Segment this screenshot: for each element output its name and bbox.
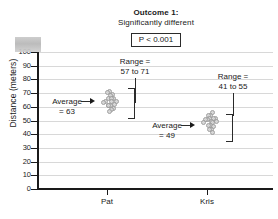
scan-artifact bbox=[15, 37, 41, 52]
annotation-kris-average-line2: = 49 bbox=[141, 131, 193, 141]
y-tick bbox=[31, 162, 37, 163]
y-axis-title: Distance (meters) bbox=[8, 38, 18, 148]
y-tick bbox=[31, 107, 37, 108]
y-tick bbox=[31, 121, 37, 122]
bracket-pat-range bbox=[128, 88, 135, 119]
annotation-kris-average: Average = 49 bbox=[141, 121, 193, 140]
y-tick bbox=[31, 52, 37, 53]
gridline bbox=[37, 93, 273, 94]
gridline bbox=[37, 52, 273, 53]
leader-line-kris-range bbox=[233, 93, 234, 116]
annotation-pat-range-line2: 57 to 71 bbox=[105, 67, 165, 77]
y-tick bbox=[31, 134, 37, 135]
x-axis-line bbox=[37, 188, 273, 190]
leader-line-pat-range bbox=[135, 78, 136, 103]
y-tick-label: 20 bbox=[9, 158, 31, 166]
annotation-pat-average-line2: = 63 bbox=[41, 107, 93, 117]
annotation-kris-range-line2: 41 to 55 bbox=[202, 82, 264, 92]
arrow-head-kris-icon bbox=[190, 122, 195, 128]
annotation-pat-average: Average = 63 bbox=[41, 97, 93, 116]
annotation-kris-range: Range = 41 to 55 bbox=[202, 72, 264, 91]
p-value-box: P < 0.001 bbox=[131, 33, 181, 47]
arrow-head-pat-icon bbox=[90, 98, 95, 104]
gridline bbox=[37, 162, 273, 163]
x-label-pat: Pat bbox=[84, 197, 130, 206]
y-tick bbox=[31, 79, 37, 80]
chart-subtitle: Significantly different bbox=[96, 18, 216, 28]
x-label-kris: Kris bbox=[184, 197, 230, 206]
y-tick-label: 10 bbox=[9, 171, 31, 179]
y-tick bbox=[31, 93, 37, 94]
gridline bbox=[37, 148, 273, 149]
y-tick bbox=[31, 189, 37, 190]
data-point bbox=[107, 109, 112, 114]
y-axis-line bbox=[37, 52, 39, 189]
y-tick bbox=[31, 148, 37, 149]
data-point bbox=[210, 130, 215, 135]
annotation-kris-range-line1: Range = bbox=[202, 72, 264, 82]
annotation-pat-range: Range = 57 to 71 bbox=[105, 57, 165, 76]
y-tick bbox=[31, 175, 37, 176]
y-tick bbox=[31, 66, 37, 67]
x-tick-kris bbox=[207, 190, 208, 195]
bracket-kris-range bbox=[226, 114, 233, 142]
annotation-pat-range-line1: Range = bbox=[105, 57, 165, 67]
chart-figure: Outcome 1: Significantly different P < 0… bbox=[0, 0, 278, 219]
chart-title-block: Outcome 1: Significantly different P < 0… bbox=[96, 8, 216, 47]
x-tick-pat bbox=[107, 190, 108, 195]
chart-title: Outcome 1: bbox=[96, 8, 216, 18]
y-tick-label: 0 bbox=[9, 185, 31, 193]
gridline bbox=[37, 175, 273, 176]
